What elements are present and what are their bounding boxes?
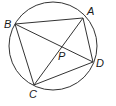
label-p: P [58,50,66,62]
segments [15,18,93,85]
label-c: C [29,88,37,100]
segment-bd [15,24,93,62]
label-b: B [4,18,11,30]
label-a: A [86,5,94,17]
segment-cb [15,24,34,85]
segment-ba [15,18,83,24]
cyclic-quadrilateral-diagram: A B C D P [0,0,116,106]
label-d: D [96,57,104,69]
